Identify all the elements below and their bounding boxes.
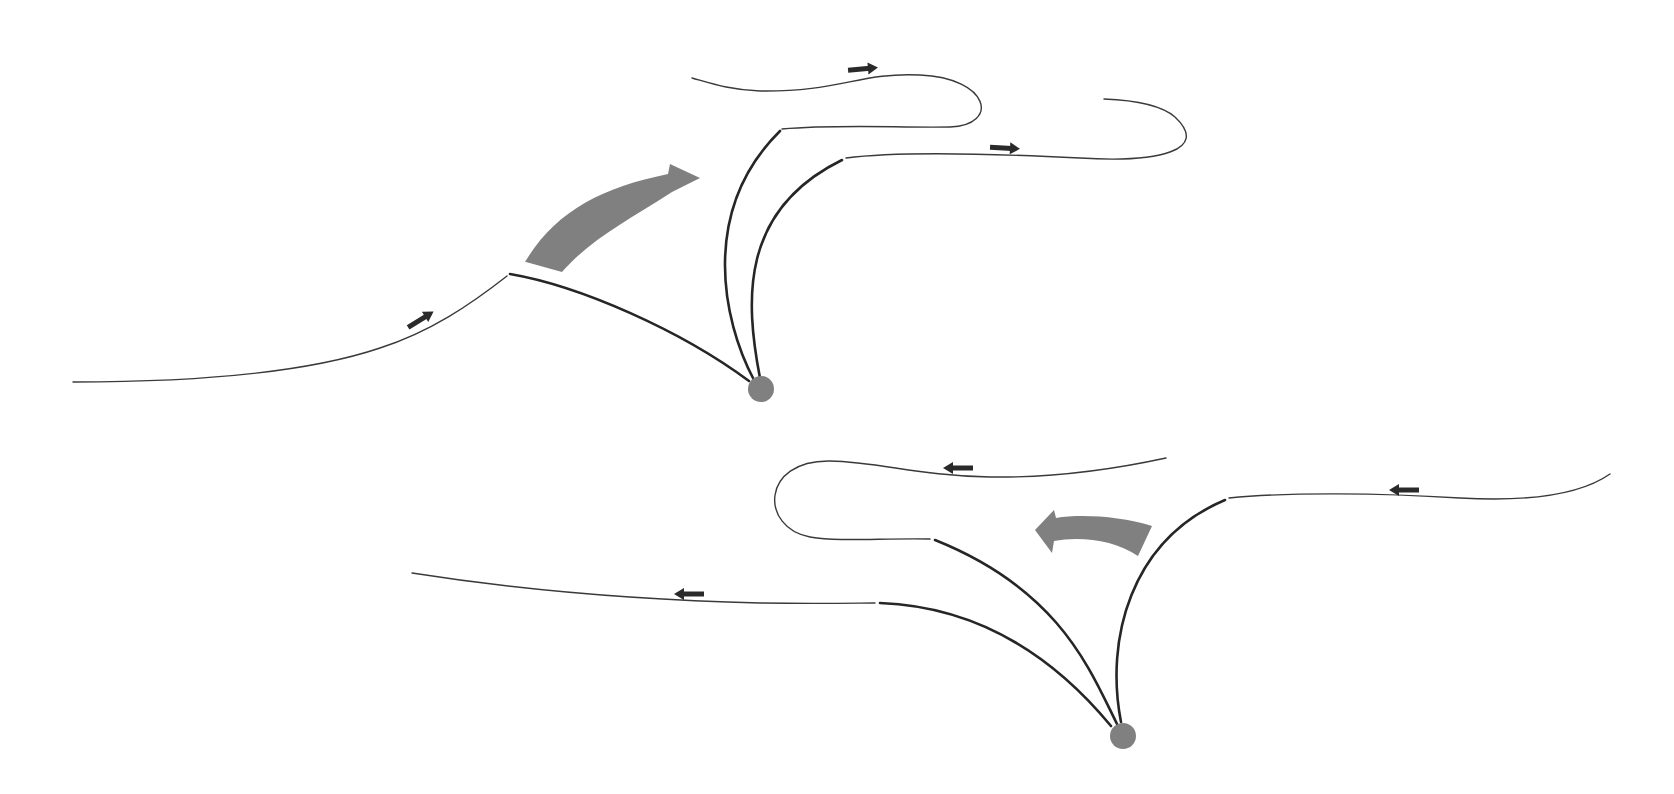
lower-inner-curve (935, 540, 1117, 724)
upper-peak-to-node-line (510, 274, 749, 381)
upper-arrow-loop1-icon (848, 62, 879, 77)
upper-group (73, 62, 1186, 402)
upper-inner-curve (725, 131, 780, 380)
upper-big-curved-arrow-icon (525, 164, 700, 272)
upper-approach-line (73, 276, 507, 382)
upper-outer-curve (752, 160, 842, 378)
lower-arrow-loop1-icon (943, 462, 973, 474)
diagram-canvas (0, 0, 1674, 794)
upper-inner-loop (692, 75, 981, 129)
lower-arrow-exit-icon (674, 588, 704, 600)
lower-node (1110, 723, 1136, 749)
lower-outer-loop (1229, 474, 1610, 499)
upper-arrow-loop2-icon (990, 141, 1021, 155)
upper-arrow-approach-icon (405, 306, 437, 332)
lower-exit-line (412, 573, 875, 603)
upper-node (748, 376, 774, 402)
lower-big-curved-arrow-icon (1035, 510, 1152, 556)
lower-left-curve (880, 603, 1111, 726)
lower-group (412, 458, 1610, 749)
